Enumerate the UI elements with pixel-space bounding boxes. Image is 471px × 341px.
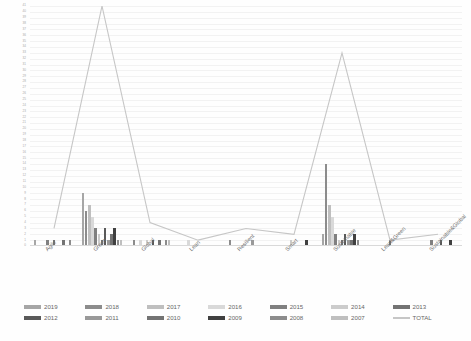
legend-item[interactable]: 2017	[147, 302, 208, 312]
bars-layer	[30, 6, 462, 246]
bar-cluster	[126, 6, 174, 246]
legend-color-swatch	[147, 305, 164, 309]
y-axis-tick-label: 9	[24, 192, 26, 195]
legend-color-swatch	[147, 316, 164, 320]
y-axis-tick-label: 41	[23, 4, 26, 7]
y-axis: 4140393837363534333231302928272625242322…	[0, 6, 28, 246]
y-axis-tick-label: 22	[23, 116, 26, 119]
legend-item[interactable]: 2007	[331, 313, 392, 323]
legend-label: 2015	[290, 304, 304, 311]
chart-container: 4140393837363534333231302928272625242322…	[0, 0, 471, 341]
legend-item[interactable]: 2014	[331, 302, 392, 312]
bar-cluster	[174, 6, 222, 246]
y-axis-tick-label: 5	[24, 215, 26, 218]
chart-legend: 2019201820172016201520142013 20122011201…	[24, 302, 454, 328]
legend-label: TOTAL	[413, 315, 432, 322]
y-axis-tick-label: 14	[23, 162, 26, 165]
bar-cluster	[222, 6, 270, 246]
y-axis-tick-label: 39	[23, 16, 26, 19]
y-axis-tick-label: 13	[23, 168, 26, 171]
legend-item[interactable]: 2019	[24, 302, 85, 312]
plot-area	[30, 6, 462, 246]
y-axis-tick-label: 37	[23, 28, 26, 31]
y-axis-tick-label: 19	[23, 133, 26, 136]
y-axis-tick-label: 35	[23, 40, 26, 43]
legend-label: 2017	[167, 304, 181, 311]
bar-cluster	[78, 6, 126, 246]
y-axis-tick-label: 3	[24, 227, 26, 230]
bar-cluster	[30, 6, 78, 246]
legend-item[interactable]: 2010	[147, 313, 208, 323]
y-axis-tick-label: 18	[23, 139, 26, 142]
legend-row-bottom: 201220112010200920082007TOTAL	[24, 313, 454, 323]
y-axis-tick-label: 15	[23, 157, 26, 160]
bar-cluster	[270, 6, 318, 246]
x-axis: AgileGreenGlobalLeanResilientSmartSustai…	[30, 248, 462, 294]
legend-color-swatch	[85, 316, 102, 320]
y-axis-tick-label: 34	[23, 45, 26, 48]
legend-label: 2014	[351, 304, 365, 311]
legend-item[interactable]: 2008	[270, 313, 331, 323]
y-axis-tick-label: 40	[23, 10, 26, 13]
y-axis-tick-label: 23	[23, 110, 26, 113]
legend-label: 2012	[44, 315, 58, 322]
bar-cluster	[366, 6, 414, 246]
legend-label: 2013	[413, 304, 427, 311]
y-axis-tick-label: 33	[23, 51, 26, 54]
legend-color-swatch	[331, 305, 348, 309]
y-axis-tick-label: 10	[23, 186, 26, 189]
legend-color-swatch	[208, 316, 225, 320]
y-axis-tick-label: 4	[24, 221, 26, 224]
y-axis-tick-label: 17	[23, 145, 26, 148]
legend-color-swatch	[270, 316, 287, 320]
legend-item[interactable]: 2015	[270, 302, 331, 312]
legend-label: 2018	[105, 304, 119, 311]
y-axis-tick-label: 20	[23, 127, 26, 130]
y-axis-tick-label: 36	[23, 34, 26, 37]
legend-item[interactable]: 2018	[85, 302, 146, 312]
legend-label: 2008	[290, 315, 304, 322]
y-axis-tick-label: 0	[24, 244, 26, 247]
legend-label: 2007	[351, 315, 365, 322]
legend-color-swatch	[24, 316, 41, 320]
y-axis-tick-label: 25	[23, 98, 26, 101]
y-axis-tick-label: 32	[23, 57, 26, 60]
legend-label: 2016	[228, 304, 242, 311]
legend-label: 2011	[105, 315, 118, 322]
y-axis-tick-label: 7	[24, 203, 26, 206]
bar-cluster	[318, 6, 366, 246]
y-axis-tick-label: 8	[24, 198, 26, 201]
y-axis-tick-label: 38	[23, 22, 26, 25]
y-axis-tick-label: 11	[23, 180, 26, 183]
y-axis-tick-label: 29	[23, 75, 26, 78]
y-axis-tick-label: 6	[24, 209, 26, 212]
y-axis-tick-label: 27	[23, 86, 26, 89]
legend-line-swatch	[393, 317, 410, 318]
legend-item[interactable]: 2016	[208, 302, 269, 312]
y-axis-tick-label: 24	[23, 104, 26, 107]
legend-item[interactable]: 2011	[85, 313, 146, 323]
legend-item[interactable]: 2012	[24, 313, 85, 323]
legend-color-swatch	[393, 305, 410, 309]
y-axis-tick-label: 30	[23, 69, 26, 72]
y-axis-tick-label: 31	[23, 63, 26, 66]
legend-label: 2010	[167, 315, 181, 322]
legend-color-swatch	[331, 316, 348, 320]
legend-item[interactable]: 2009	[208, 313, 269, 323]
page-edge-artifact	[160, 332, 330, 338]
legend-label: 2009	[228, 315, 242, 322]
legend-row-top: 2019201820172016201520142013	[24, 302, 454, 312]
legend-color-swatch	[24, 305, 41, 309]
y-axis-tick-label: 21	[23, 121, 26, 124]
legend-color-swatch	[85, 305, 102, 309]
legend-color-swatch	[208, 305, 225, 309]
legend-label: 2019	[44, 304, 58, 311]
legend-item[interactable]: 2013	[393, 302, 454, 312]
y-axis-tick-label: 2	[24, 233, 26, 236]
y-axis-tick-label: 16	[23, 151, 26, 154]
y-axis-tick-label: 28	[23, 80, 26, 83]
legend-color-swatch	[270, 305, 287, 309]
legend-item[interactable]: TOTAL	[393, 313, 454, 323]
bar-cluster	[414, 6, 462, 246]
y-axis-tick-label: 12	[23, 174, 26, 177]
